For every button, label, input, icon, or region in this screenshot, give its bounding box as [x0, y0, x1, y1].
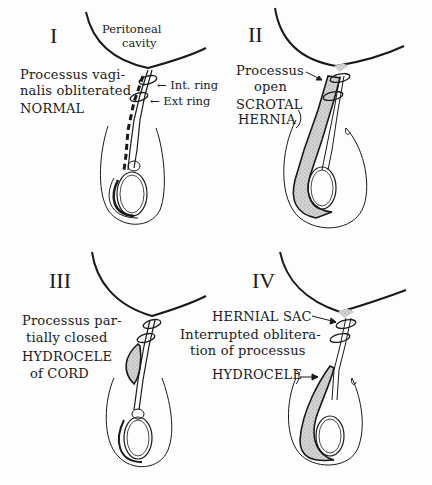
panel-ii-desc-line1: Processus	[236, 64, 304, 77]
internal-ring-label: ← Int. ring	[157, 80, 218, 92]
panel-iv-drawing	[280, 252, 406, 465]
panel-iii-title-line2: of CORD	[30, 367, 89, 380]
panel-ii-title-line1: SCROTAL	[236, 98, 303, 111]
external-ring-label: ← Ext ring	[150, 96, 210, 108]
peritoneal-cavity-label-line2: cavity	[122, 38, 157, 50]
panel-iv-title: HYDROCELE	[212, 368, 302, 381]
panel-i-desc-line1: Processus vagi-	[20, 68, 125, 81]
hernial-sac-label: HERNIAL SAC	[212, 310, 312, 323]
panel-ii-title-line2: HERNIA	[238, 113, 296, 126]
panel-iv-numeral: IV	[252, 270, 275, 292]
panel-iv-desc-line2: tion of processus	[190, 344, 306, 357]
panel-iii-title-line1: HYDROCELE	[22, 350, 112, 363]
panel-iii-desc-line2: tially closed	[26, 331, 107, 344]
panel-iii-numeral: III	[49, 270, 71, 292]
panel-iii-desc-line1: Processus par-	[22, 314, 122, 327]
panel-i-title: NORMAL	[20, 102, 84, 115]
peritoneal-cavity-label-line1: Peritoneal	[102, 24, 162, 36]
panel-i-numeral: I	[50, 25, 57, 47]
panel-i-desc-line2: nalis obliterated	[20, 84, 131, 97]
diagram-canvas: I Peritoneal cavity Processus vagi- nali…	[0, 0, 432, 485]
panel-iv-desc-line1: Interrupted oblitera-	[180, 328, 321, 341]
panel-ii-desc-line2: open	[254, 80, 287, 93]
panel-ii-numeral: II	[248, 24, 263, 46]
